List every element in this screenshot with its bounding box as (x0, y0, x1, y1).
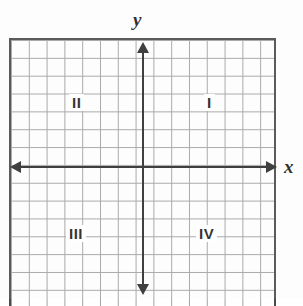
y-axis-line (142, 50, 144, 289)
quadrant-label-ii: II (69, 94, 84, 111)
quadrant-label-iii: III (66, 225, 86, 242)
x-axis-left-arrow-icon (10, 161, 21, 173)
y-axis-down-arrow-icon (137, 284, 149, 295)
y-axis-label: y (133, 10, 141, 29)
quadrant-label-i: I (204, 94, 215, 111)
x-axis-line (18, 166, 271, 168)
quadrant-label-iv: IV (196, 225, 217, 242)
x-axis-right-arrow-icon (266, 161, 277, 173)
y-axis-up-arrow-icon (137, 42, 149, 53)
x-axis-label: x (284, 157, 294, 176)
